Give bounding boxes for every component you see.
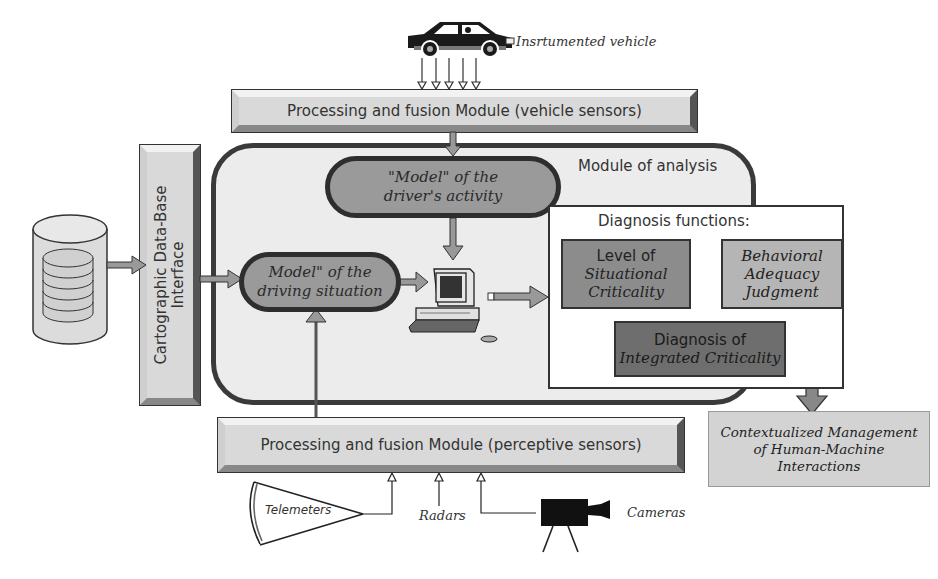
situation-model-line2: driving situation	[257, 282, 383, 301]
arrow-situation-to-computer	[400, 272, 428, 292]
telemeters-label: Telemeters	[265, 503, 331, 517]
arrow-computer-to-diagnosis	[488, 286, 548, 308]
diagnosis-title: Diagnosis functions:	[598, 212, 750, 230]
integrated-line2: Integrated Criticality	[619, 349, 780, 367]
arrow-vehicle-to-driver	[445, 132, 461, 156]
behavioral-line1: Behavioral	[741, 247, 823, 265]
situation-model-line1: Model" of the	[268, 263, 371, 282]
situational-line2: Situational	[585, 265, 668, 283]
driving-situation-model: Model" of the driving situation	[239, 252, 401, 312]
perceptive-sensors-label: Processing and fusion Module (perceptive…	[260, 436, 641, 454]
cameras-label: Cameras	[627, 505, 685, 520]
situational-criticality: Level of Situational Criticality	[561, 239, 691, 309]
arrow-interface-to-situation	[200, 270, 242, 288]
perceptive-sensors-module: Processing and fusion Module (perceptive…	[218, 418, 684, 472]
behavioral-line2: Adequacy	[745, 265, 819, 283]
arrow-perceptive-to-situation	[306, 309, 326, 418]
situational-line3: Criticality	[588, 283, 664, 301]
integrated-line1: Diagnosis of	[654, 331, 746, 349]
behavioral-adequacy: Behavioral Adequacy Judgment	[721, 239, 843, 309]
situational-line1: Level of	[597, 247, 656, 265]
hmi-management-output: Contextualized Management of Human-Machi…	[708, 411, 930, 487]
radars-label: Radars	[419, 508, 466, 523]
database-icon	[33, 215, 107, 344]
behavioral-line3: Judgment	[745, 283, 819, 301]
arrow-driver-to-computer	[443, 218, 463, 260]
integrated-criticality: Diagnosis of Integrated Criticality	[614, 321, 786, 377]
output-line2: of Human-Machine	[753, 441, 884, 458]
arrow-db-to-interface	[107, 256, 146, 274]
output-line3: Interactions	[778, 458, 861, 475]
camera-icon	[541, 499, 610, 552]
driver-model-line1: "Model" of the	[388, 168, 498, 187]
driver-activity-model: "Model" of the driver's activity	[325, 156, 561, 218]
driver-model-line2: driver's activity	[384, 187, 503, 206]
output-line1: Contextualized Management	[720, 424, 917, 441]
